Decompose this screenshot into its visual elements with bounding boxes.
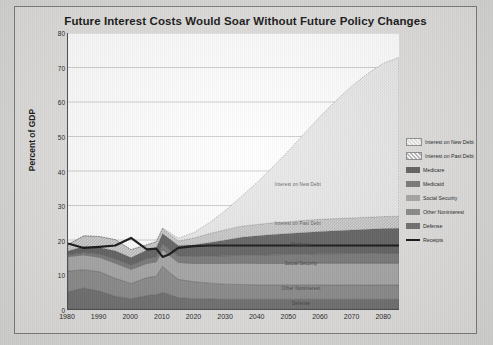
legend-item[interactable]: Receipts	[406, 233, 490, 247]
y-axis-tick-labels: 01020304050607080	[37, 33, 65, 310]
legend-item[interactable]: Interest on New Debt	[406, 135, 490, 149]
x-tick-label: 2010	[145, 313, 179, 320]
legend-item[interactable]: Other Noninterest	[406, 205, 490, 219]
plot-annotation: Defense	[292, 301, 310, 306]
x-tick-label: 2000	[113, 313, 147, 320]
legend-item-label: Defense	[423, 223, 442, 229]
plot-area	[67, 33, 399, 310]
y-tick-label: 60	[45, 99, 65, 106]
plot-annotation: Interest on Past Debt	[275, 221, 321, 226]
legend-item-label: Receipts	[423, 237, 443, 243]
y-tick-label: 80	[45, 30, 65, 37]
chart-frame: Future Interest Costs Would Soar Without…	[14, 6, 477, 334]
legend-item[interactable]: Medicaid	[406, 177, 490, 191]
x-tick-label: 2040	[240, 313, 274, 320]
y-tick-label: 20	[45, 237, 65, 244]
x-axis-tick-labels: 1980199020002010202020302040205020602070…	[67, 313, 399, 327]
plot-annotation: Interest on New Debt	[275, 181, 321, 186]
scanned-page: Future Interest Costs Would Soar Without…	[0, 0, 493, 345]
legend-item[interactable]: Interest on Past Debt	[406, 149, 490, 163]
legend-swatch-icon	[406, 195, 420, 201]
y-tick-label: 10	[45, 272, 65, 279]
legend-item-label: Social Security	[423, 195, 457, 201]
legend-swatch-icon	[406, 209, 420, 215]
legend-item[interactable]: Medicare	[406, 163, 490, 177]
legend-swatch-icon	[406, 138, 422, 146]
legend-item-label: Medicaid	[423, 181, 444, 187]
y-axis-title: Percent of GDP	[27, 95, 37, 185]
plot-annotation: Medicare	[291, 242, 311, 247]
legend-item-label: Other Noninterest	[423, 209, 464, 215]
legend-swatch-icon	[406, 152, 422, 160]
legend-item-label: Interest on Past Debt	[425, 153, 474, 159]
legend-item[interactable]: Social Security	[406, 191, 490, 205]
x-tick-label: 1990	[82, 313, 116, 320]
legend-item-label: Medicare	[423, 167, 444, 173]
x-tick-label: 2020	[176, 313, 210, 320]
y-tick-label: 40	[45, 168, 65, 175]
y-tick-label: 70	[45, 64, 65, 71]
x-tick-label: 2080	[366, 313, 400, 320]
x-tick-label: 2060	[303, 313, 337, 320]
x-tick-label: 2070	[335, 313, 369, 320]
legend-item[interactable]: Defense	[406, 219, 490, 233]
legend-swatch-icon	[406, 167, 420, 173]
plot-wrapper: Interest on New DebtInterest on Past Deb…	[67, 33, 399, 310]
stacked-area-plot	[68, 33, 399, 309]
x-tick-label: 1980	[50, 313, 84, 320]
y-tick-label: 30	[45, 203, 65, 210]
x-tick-label: 2030	[208, 313, 242, 320]
chart-legend: Interest on New DebtInterest on Past Deb…	[406, 135, 490, 247]
x-tick-label: 2050	[271, 313, 305, 320]
legend-swatch-icon	[406, 223, 420, 229]
legend-swatch-icon	[406, 181, 420, 187]
plot-annotation: Social Security	[285, 261, 318, 266]
y-tick-label: 50	[45, 133, 65, 140]
plot-annotation: Other Noninterest	[282, 286, 321, 291]
legend-swatch-icon	[406, 239, 420, 241]
legend-item-label: Interest on New Debt	[425, 139, 474, 145]
chart-title: Future Interest Costs Would Soar Without…	[15, 15, 476, 27]
